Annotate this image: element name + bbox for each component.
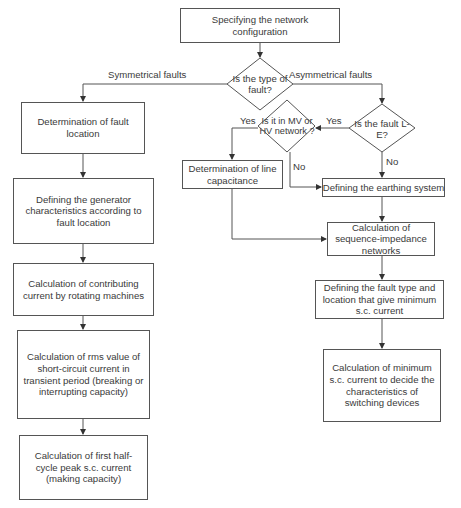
fault-type-min-box: Defining the fault type and location tha… (315, 280, 444, 319)
edge-label-mv-no: No (293, 161, 305, 172)
sym-peak-box: Calculation of first half-cycle peak s.c… (19, 435, 148, 500)
sym-generator-box: Defining the generator characteristics a… (13, 178, 154, 244)
decision-fault-type: Is the type of fault? (230, 70, 290, 98)
line-capacitance-box: Determination of line capacitance (182, 160, 283, 189)
min-sc-box: Calculation of minimum s.c. current to d… (323, 349, 441, 422)
sym-fault-location-box: Determination of fault location (21, 102, 145, 154)
earthing-box: Defining the earthing system (322, 178, 445, 197)
edge-label-le-yes: Yes (326, 115, 342, 126)
edge-label-asymmetrical: Asymmetrical faults (289, 69, 372, 80)
sequence-box: Calculation of sequence-impedance networ… (327, 222, 435, 256)
start-box: Specifying the network configuration (180, 8, 340, 43)
sym-contributing-box: Calculation of contributing current by r… (13, 263, 154, 316)
sym-rms-box: Calculation of rms value of short-circui… (17, 330, 150, 419)
decision-le: Is the fault L-E? (351, 116, 413, 142)
edge-label-symmetrical: Symmetrical faults (108, 69, 186, 80)
edge-label-le-no: No (386, 156, 398, 167)
edge-label-mv-yes: Yes (240, 115, 256, 126)
decision-mv-hv: Is it in MV or HV network ? (259, 103, 315, 149)
